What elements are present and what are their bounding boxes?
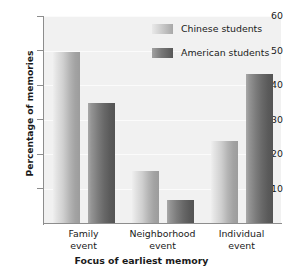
bar-american-students-family-event [88, 103, 115, 223]
x-tick-label: Familyevent [39, 228, 129, 251]
legend-label-chinese: Chinese students [181, 23, 262, 34]
bar-chart-figure: Percentage of memories 102030405060 Chin… [0, 0, 283, 274]
bar-american-students-neighborhood-event [167, 200, 194, 223]
y-tick-mark [37, 154, 43, 155]
x-tick-label: Neighborhoodevent [118, 228, 208, 251]
bar-chinese-students-family-event [53, 52, 80, 223]
legend-label-american: American students [181, 47, 269, 58]
legend-item-american-students: American students [152, 44, 283, 61]
x-tick-label-line: event [39, 240, 129, 252]
y-tick-mark [37, 16, 43, 17]
y-tick-mark [37, 50, 43, 51]
bar-american-students-individual-event [246, 74, 273, 223]
y-tick-mark [37, 119, 43, 120]
legend-swatch-icon-chinese [152, 24, 173, 34]
x-tick-label-line: Individual [219, 228, 265, 239]
legend-swatch-icon-american [152, 48, 173, 58]
bar-chinese-students-individual-event [211, 141, 238, 223]
x-tick-label-line: Neighborhood [129, 228, 195, 239]
bar-chinese-students-neighborhood-event [132, 171, 159, 223]
y-tick-mark [37, 188, 43, 189]
chart-legend: Chinese students American students [152, 20, 283, 68]
x-tick-label: Individualevent [197, 228, 284, 251]
x-axis-title: Focus of earliest memory [0, 255, 283, 266]
x-tick-label-line: event [197, 240, 284, 252]
x-axis-line [43, 223, 282, 224]
x-tick-label-line: Family [68, 228, 98, 239]
legend-item-chinese-students: Chinese students [152, 20, 283, 37]
x-tick-label-line: event [118, 240, 208, 252]
y-tick-mark [37, 85, 43, 86]
y-axis-title: Percentage of memories [24, 29, 35, 199]
